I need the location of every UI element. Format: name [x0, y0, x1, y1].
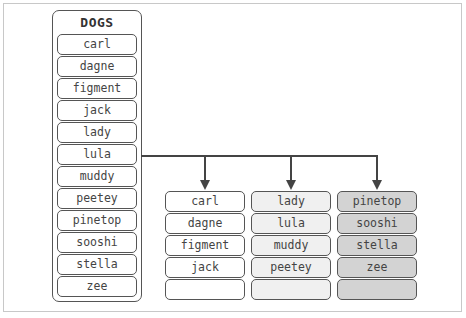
connector-drop-line [204, 155, 206, 182]
bucket-item: dagne [165, 213, 245, 234]
source-item: muddy [57, 166, 137, 187]
source-item: lula [57, 144, 137, 165]
bucket-item: figment [165, 235, 245, 256]
bucket-item: muddy [251, 235, 331, 256]
arrow-down-icon [200, 180, 210, 190]
bucket-item: sooshi [337, 213, 417, 234]
source-item: peetey [57, 188, 137, 209]
bucket-item: lady [251, 191, 331, 212]
source-item: pinetop [57, 210, 137, 231]
bucket-item-empty [165, 279, 245, 300]
bucket-item: zee [337, 257, 417, 278]
connector-horizontal-line [141, 155, 378, 157]
connector-drop-line [290, 155, 292, 182]
dogs-source-box: DOGS carl dagne figment jack lady lula m… [52, 10, 142, 302]
source-item: dagne [57, 56, 137, 77]
source-item: zee [57, 276, 137, 297]
bucket-item: carl [165, 191, 245, 212]
source-item: sooshi [57, 232, 137, 253]
bucket-item: lula [251, 213, 331, 234]
bucket-item: pinetop [337, 191, 417, 212]
source-item: lady [57, 122, 137, 143]
bucket-item: jack [165, 257, 245, 278]
dogs-title: DOGS [53, 15, 141, 30]
bucket-item: peetey [251, 257, 331, 278]
bucket-item: stella [337, 235, 417, 256]
source-item: stella [57, 254, 137, 275]
bucket-item-empty [251, 279, 331, 300]
source-item: carl [57, 34, 137, 55]
arrow-down-icon [372, 180, 382, 190]
connector-drop-line [376, 155, 378, 182]
arrow-down-icon [286, 180, 296, 190]
bucket-item-empty [337, 279, 417, 300]
source-item: figment [57, 78, 137, 99]
source-item: jack [57, 100, 137, 121]
